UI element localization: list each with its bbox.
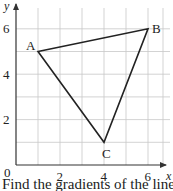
coordinate-grid: 2462460xyABC (0, 0, 173, 191)
svg-text:C: C (102, 146, 111, 161)
triangle-abc (38, 29, 148, 143)
svg-text:2: 2 (3, 112, 10, 127)
svg-text:4: 4 (3, 67, 10, 82)
svg-text:A: A (26, 38, 36, 53)
svg-text:y: y (3, 0, 10, 13)
question-text: Find the gradients of the lines (2, 176, 173, 191)
svg-text:B: B (152, 21, 161, 36)
svg-text:6: 6 (3, 21, 10, 36)
